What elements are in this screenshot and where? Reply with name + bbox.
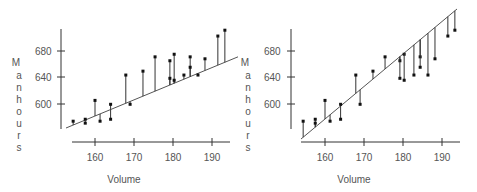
x-tick-label: 170: [356, 152, 373, 163]
data-point: [446, 35, 449, 38]
left-chart: 680 640 600 M a n h o u r s 160 170 180 …: [0, 0, 238, 192]
y-axis: 680 640 600: [35, 29, 65, 129]
x-tick-label: 180: [395, 152, 412, 163]
data-point: [203, 57, 206, 60]
svg-text:u: u: [245, 118, 251, 129]
x-axis: 160 170 180 190 Volume: [301, 138, 460, 185]
svg-text:h: h: [16, 94, 22, 105]
svg-text:u: u: [16, 118, 22, 129]
svg-text:h: h: [245, 94, 251, 105]
data-point: [329, 120, 332, 123]
x-tick-label: 170: [126, 152, 143, 163]
data-point: [339, 118, 342, 121]
y-tick-label: 600: [264, 99, 281, 110]
data-point: [403, 79, 406, 82]
svg-text:n: n: [16, 82, 22, 93]
svg-text:s: s: [246, 142, 251, 153]
data-point: [412, 74, 415, 77]
data-point: [354, 74, 357, 77]
fit-line: [301, 9, 457, 139]
data-point: [168, 77, 171, 80]
data-point: [168, 59, 171, 62]
data-point: [359, 103, 362, 106]
right-chart-svg: 680 640 600 M a n h o u r s 160 170 180 …: [239, 0, 477, 192]
data-point: [453, 29, 456, 32]
data-point: [124, 74, 127, 77]
data-point: [141, 70, 144, 73]
left-chart-svg: 680 640 600 M a n h o u r s 160 170 180 …: [0, 0, 238, 192]
data-point: [99, 120, 102, 123]
y-axis-title: M a n h o u r s: [12, 57, 22, 153]
x-axis: 160 170 180 190 Volume: [72, 138, 230, 185]
data-point: [433, 57, 436, 60]
data-point: [189, 55, 192, 58]
x-axis-title: Volume: [107, 174, 141, 185]
svg-text:n: n: [245, 82, 251, 93]
y-tick-label: 680: [264, 46, 281, 57]
data-point: [314, 118, 317, 121]
y-tick-label: 600: [35, 99, 52, 110]
data-point: [109, 118, 112, 121]
svg-text:a: a: [16, 70, 22, 81]
x-tick-label: 160: [317, 152, 334, 163]
y-axis: 680 640 600: [264, 29, 295, 129]
svg-text:r: r: [17, 130, 21, 141]
x-axis-title: Volume: [337, 174, 371, 185]
data-point: [314, 122, 317, 125]
data-point: [189, 66, 192, 69]
x-tick-label: 160: [87, 152, 104, 163]
data-point: [324, 99, 327, 102]
data-point: [182, 74, 185, 77]
y-axis-title: M a n h o u r s: [241, 57, 251, 153]
svg-text:M: M: [241, 57, 249, 68]
data-point: [173, 53, 176, 56]
svg-text:o: o: [245, 106, 251, 117]
x-tick-label: 190: [434, 152, 451, 163]
data-point: [109, 103, 112, 106]
data-point: [419, 66, 422, 69]
data-points: [72, 29, 227, 125]
data-point: [72, 120, 75, 123]
data-point: [426, 74, 429, 77]
right-chart: 680 640 600 M a n h o u r s 160 170 180 …: [239, 0, 477, 192]
data-point: [94, 99, 97, 102]
data-point: [154, 55, 157, 58]
svg-text:M: M: [12, 57, 20, 68]
y-tick-label: 680: [35, 46, 52, 57]
data-point: [223, 29, 226, 32]
data-point: [384, 55, 387, 58]
data-point: [84, 122, 87, 125]
svg-text:a: a: [245, 70, 251, 81]
data-point: [196, 74, 199, 77]
data-point: [129, 103, 132, 106]
data-point: [398, 77, 401, 80]
fit-line: [66, 56, 238, 128]
x-tick-label: 190: [204, 152, 221, 163]
x-tick-label: 180: [165, 152, 182, 163]
y-tick-label: 640: [264, 72, 281, 83]
data-point: [339, 103, 342, 106]
data-point: [216, 35, 219, 38]
svg-text:o: o: [16, 106, 22, 117]
data-point: [371, 70, 374, 73]
y-tick-label: 640: [35, 72, 52, 83]
svg-text:r: r: [246, 130, 250, 141]
svg-text:s: s: [17, 142, 22, 153]
data-point: [173, 79, 176, 82]
data-point: [302, 120, 305, 123]
